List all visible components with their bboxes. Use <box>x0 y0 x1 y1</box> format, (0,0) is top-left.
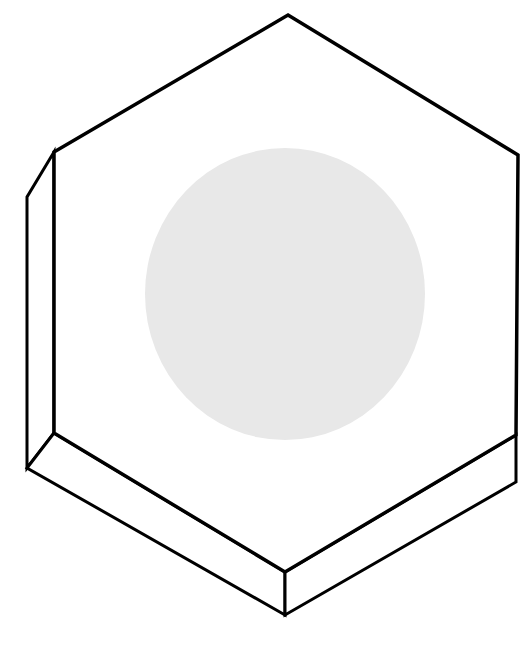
hex-prism-drawing <box>0 0 531 664</box>
diagram-canvas <box>0 0 531 664</box>
left-side-face <box>27 152 54 468</box>
center-circle <box>145 148 425 440</box>
